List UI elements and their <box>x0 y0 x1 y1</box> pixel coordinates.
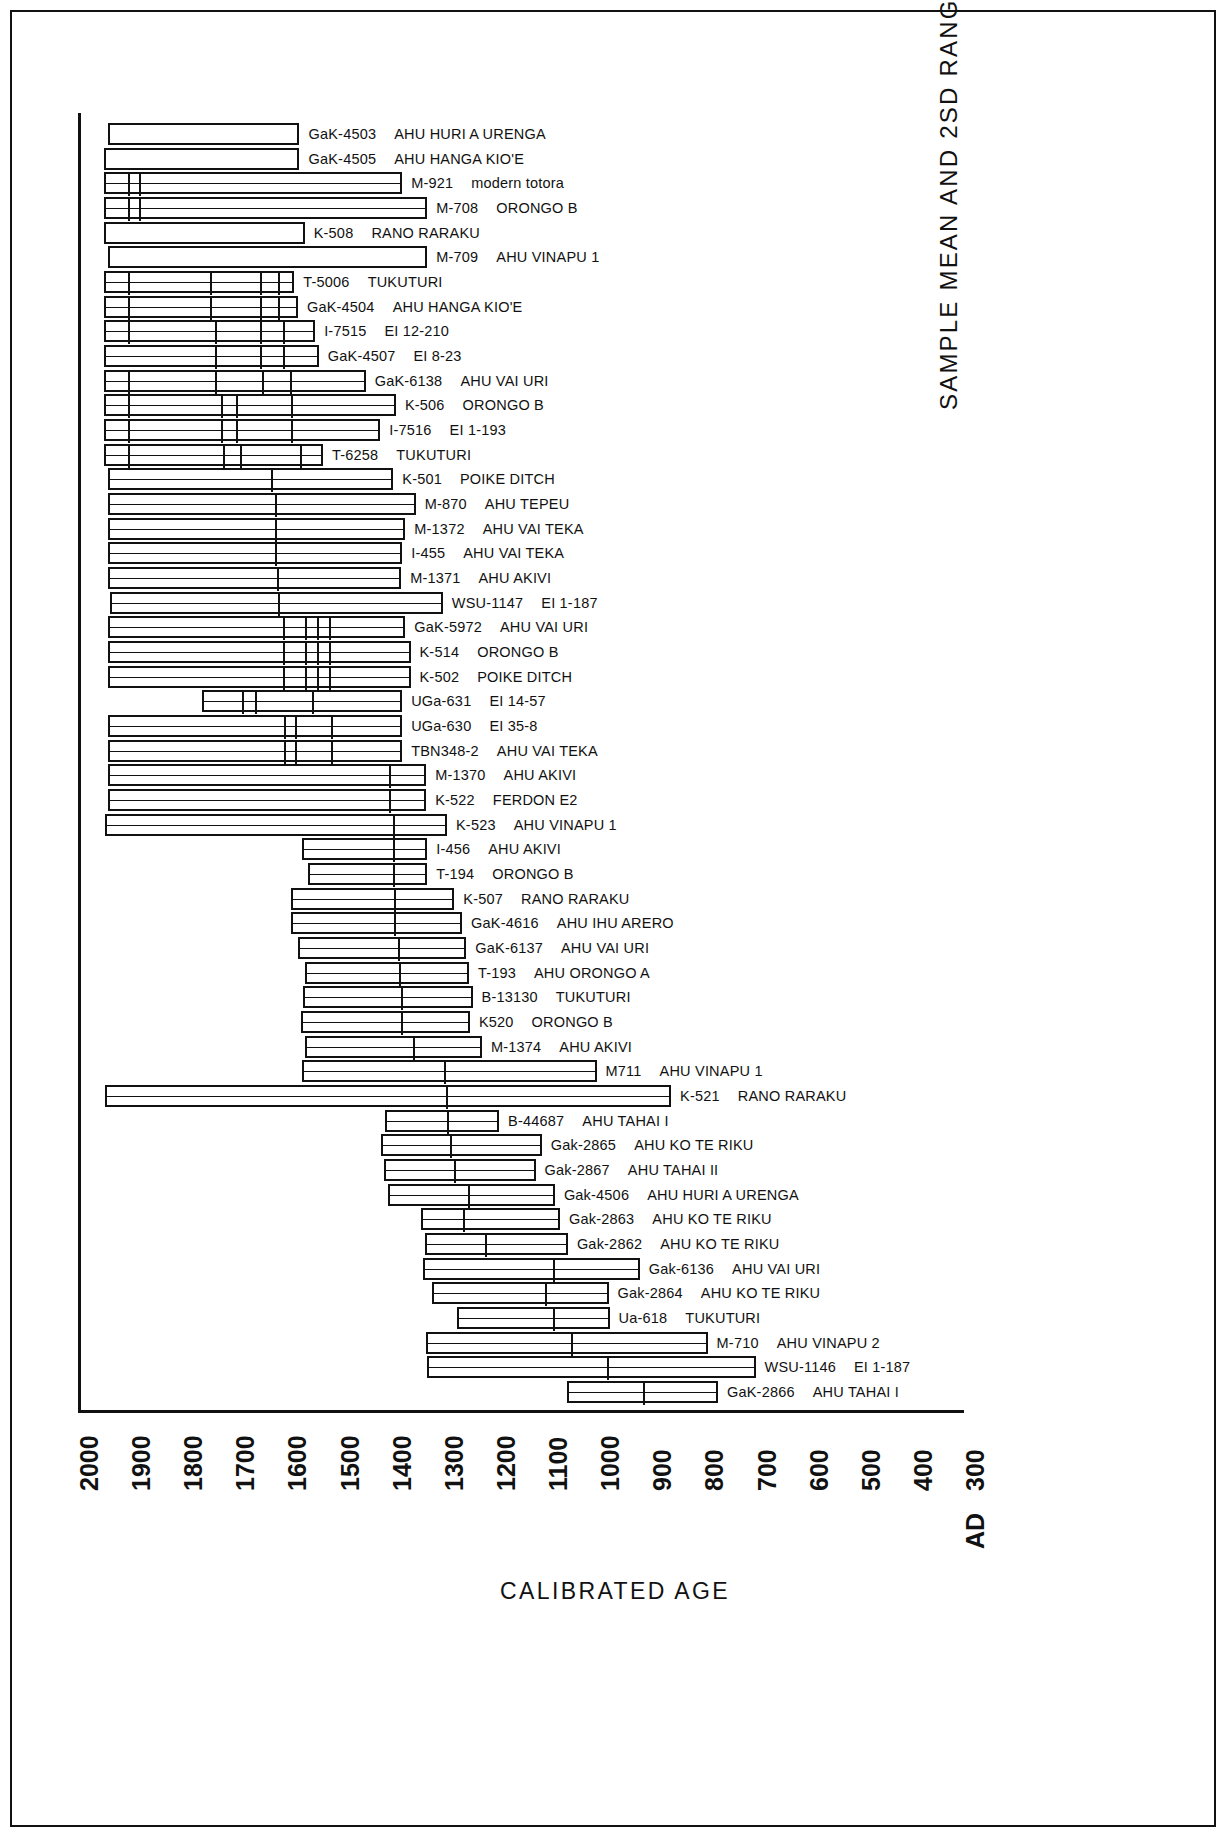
bar-mean-divider <box>413 1038 415 1060</box>
date-range-bar <box>427 1356 755 1378</box>
bar-label: K-501POIKE DITCH <box>402 469 555 489</box>
bar-mean-divider <box>277 569 279 591</box>
site-name: AHU TAHAI II <box>628 1160 719 1180</box>
bar-midline <box>107 1096 669 1097</box>
bar-mean-divider <box>317 668 319 690</box>
bar-label: M-870AHU TEPEU <box>425 494 570 514</box>
bar-midline <box>386 1170 533 1171</box>
site-name: AHU AKIVI <box>559 1037 632 1057</box>
site-name: AHU TEPEU <box>485 494 570 514</box>
bar-label: M-1370AHU AKIVI <box>435 765 576 785</box>
site-name: EI 1-187 <box>541 593 597 613</box>
bar-label: Gak-2863AHU KO TE RIKU <box>569 1209 772 1229</box>
bar-mean-divider <box>450 1136 452 1158</box>
bar-label: I-455AHU VAI TEKA <box>411 543 564 563</box>
x-tick-text: 1000 <box>596 1435 625 1491</box>
bar-mean-divider <box>468 1186 470 1208</box>
bar-mean-divider <box>128 174 130 196</box>
bar-mean-divider <box>291 396 293 418</box>
bar-label: B-44687AHU TAHAI I <box>508 1111 669 1131</box>
site-name: EI 1-187 <box>854 1357 910 1377</box>
x-tick-text: 600 <box>805 1449 834 1491</box>
bar-midline <box>106 307 296 308</box>
bar-midline <box>310 874 425 875</box>
bar-label: K-521RANO RARAKU <box>680 1086 846 1106</box>
bar-mean-divider <box>312 692 314 714</box>
sample-code: I-455 <box>411 543 445 563</box>
date-range-bar <box>308 863 427 885</box>
site-name: AHU KO TE RIKU <box>660 1234 779 1254</box>
bar-mean-divider <box>236 421 238 443</box>
bar-label: GaK-6138AHU VAI URI <box>375 371 549 391</box>
bar-mean-divider <box>271 470 273 492</box>
date-range-bar <box>381 1134 542 1156</box>
bar-label: Ua-618TUKUTURI <box>619 1308 761 1328</box>
bar-mean-divider <box>221 396 223 418</box>
sample-code: T-193 <box>478 963 516 983</box>
bar-midline <box>304 849 425 850</box>
bar-mean-divider <box>454 1161 456 1183</box>
bar-label: K-508RANO RARAKU <box>314 223 480 243</box>
bar-midline <box>106 183 400 184</box>
bar-mean-divider <box>260 347 262 369</box>
date-range-bar <box>432 1282 608 1304</box>
sample-code: GaK-4504 <box>307 297 375 317</box>
bar-mean-divider <box>221 421 223 443</box>
date-range-bar <box>104 394 396 416</box>
sample-code: Ua-618 <box>619 1308 668 1328</box>
site-name: TUKUTURI <box>556 987 631 1007</box>
x-tick-label: 800 <box>700 1421 742 1450</box>
bar-label: M-1374AHU AKIVI <box>491 1037 632 1057</box>
bar-mean-divider <box>393 865 395 887</box>
bar-midline <box>390 1195 553 1196</box>
date-range-bar <box>108 542 402 564</box>
date-range-bar <box>108 123 299 145</box>
bar-mean-divider <box>255 692 257 714</box>
bar-mean-divider <box>607 1358 609 1380</box>
bar-mean-divider <box>223 446 225 468</box>
date-range-bar <box>108 246 427 268</box>
x-tick-label: 1000 <box>596 1421 652 1450</box>
bar-midline <box>110 775 424 776</box>
bar-midline <box>387 1121 497 1122</box>
sample-code: GaK-6138 <box>375 371 443 391</box>
bar-mean-divider <box>236 396 238 418</box>
date-range-bar <box>108 616 405 638</box>
x-tick-text: 1100 <box>544 1437 573 1491</box>
sample-code: GaK-4507 <box>328 346 396 366</box>
sample-code: T-6258 <box>332 445 378 465</box>
sample-code: I-456 <box>436 839 470 859</box>
site-name: ORONGO B <box>492 864 573 884</box>
bar-mean-divider <box>295 717 297 739</box>
x-tick-text: 700 <box>753 1449 782 1491</box>
site-name: AHU HANGA KIO'E <box>394 149 524 169</box>
bar-label: Gak-2864AHU KO TE RIKU <box>618 1283 821 1303</box>
x-tick-label: 600 <box>805 1421 847 1450</box>
site-name: RANO RARAKU <box>738 1086 847 1106</box>
bar-mean-divider <box>643 1383 645 1405</box>
date-range-bar <box>305 962 469 984</box>
bar-label: I-7515EI 12-210 <box>324 321 449 341</box>
bar-mean-divider <box>275 544 277 566</box>
x-tick-label: 1300 <box>440 1421 496 1450</box>
bar-mean-divider <box>128 322 130 344</box>
date-range-bar <box>108 666 410 688</box>
site-name: TUKUTURI <box>685 1308 760 1328</box>
x-tick-text: 800 <box>700 1449 729 1491</box>
bar-midline <box>425 1269 638 1270</box>
x-tick-text: 1300 <box>440 1435 469 1491</box>
sample-code: UGa-630 <box>411 716 471 736</box>
bar-mean-divider <box>553 1260 555 1282</box>
x-tick-label: 1400 <box>388 1421 444 1450</box>
sample-code: GaK-4505 <box>309 149 377 169</box>
site-name: AHU TAHAI I <box>582 1111 668 1131</box>
x-tick-text: 900 <box>648 1449 677 1491</box>
site-name: AHU VAI URI <box>500 617 588 637</box>
site-name: modern totora <box>471 173 564 193</box>
date-range-bar <box>108 715 402 737</box>
bar-label: M-921modern totora <box>411 173 564 193</box>
bar-label: T-194ORONGO B <box>436 864 573 884</box>
date-range-bar <box>104 222 305 244</box>
site-name: POIKE DITCH <box>460 469 555 489</box>
bar-label: GaK-4503AHU HURI A URENGA <box>309 124 546 144</box>
